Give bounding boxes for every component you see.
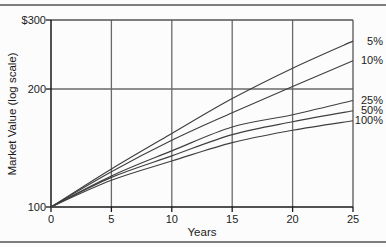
series-curve-100% bbox=[51, 121, 353, 207]
series-label-5%: 5% bbox=[367, 35, 383, 48]
figure: 100200$300 0510152025 5%10%25%50%100% Ye… bbox=[0, 0, 386, 247]
series-label-10%: 10% bbox=[361, 54, 383, 67]
x-tick-label: 25 bbox=[347, 213, 359, 225]
x-tick-label: 15 bbox=[226, 213, 238, 225]
series-curves bbox=[51, 41, 353, 207]
x-tick-label: 10 bbox=[166, 213, 178, 225]
y-axis-title: Market Value (log scale) bbox=[6, 52, 18, 175]
series-curve-50% bbox=[51, 111, 353, 207]
y-tick-label: $300 bbox=[0, 14, 46, 26]
x-tick-label: 5 bbox=[108, 213, 114, 225]
y-tick-label: 100 bbox=[0, 201, 46, 213]
chart-canvas bbox=[0, 0, 386, 247]
x-tick-label: 0 bbox=[48, 213, 54, 225]
series-curve-25% bbox=[51, 101, 353, 208]
x-tick-label: 20 bbox=[286, 213, 298, 225]
series-curve-10% bbox=[51, 61, 353, 207]
series-label-100%: 100% bbox=[355, 114, 383, 127]
x-axis-title: Years bbox=[188, 226, 217, 238]
series-curve-5% bbox=[51, 41, 353, 207]
